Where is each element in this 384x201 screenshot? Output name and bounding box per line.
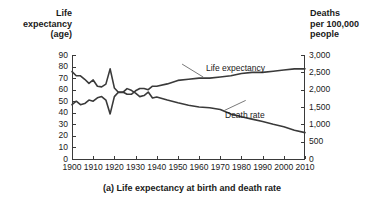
left-tick-label: 60 xyxy=(42,85,68,94)
death-rate-line xyxy=(72,69,305,133)
left-tick-label: 80 xyxy=(42,62,68,71)
left-tick-label: 30 xyxy=(42,120,68,129)
x-tick-label: 2010 xyxy=(290,163,320,172)
left-tick-label: 10 xyxy=(42,143,68,152)
life-expectancy-annotation: Life expectancy xyxy=(206,64,265,73)
life-expectancy-leader-line xyxy=(182,64,203,77)
left-tick-label: 50 xyxy=(42,97,68,106)
death-rate-leader-line xyxy=(225,100,246,110)
right-tick-label: 500 xyxy=(309,137,343,146)
plot-area: 9080706050403020100 3,0002,5002,0001,500… xyxy=(72,55,305,159)
right-tick-label: 3,000 xyxy=(309,51,343,60)
figure-life-expectancy-death-rate: Life expectancy (age) Deaths per 100,000… xyxy=(0,0,384,201)
x-tick-mark xyxy=(305,156,306,159)
left-tick-label: 90 xyxy=(42,51,68,60)
death-rate-annotation: Death rate xyxy=(225,111,265,120)
life-expectancy-line xyxy=(72,69,305,114)
left-tick-label: 20 xyxy=(42,131,68,140)
right-tick-label: 1,500 xyxy=(309,103,343,112)
right-tick-label: 1,000 xyxy=(309,120,343,129)
right-tick-label: 2,500 xyxy=(309,68,343,77)
figure-caption: (a) Life expectancy at birth and death r… xyxy=(0,183,384,193)
left-tick-label: 40 xyxy=(42,108,68,117)
right-axis-title: Deaths per 100,000 people xyxy=(310,8,384,40)
left-axis-title: Life expectancy (age) xyxy=(8,8,72,40)
right-tick-label: 2,000 xyxy=(309,85,343,94)
left-tick-label: 70 xyxy=(42,74,68,83)
series-lines xyxy=(72,55,305,160)
